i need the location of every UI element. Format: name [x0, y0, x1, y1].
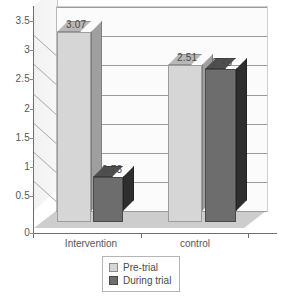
legend-label: Pre-trial: [123, 262, 158, 273]
bar-chart: 3.5 3 2.5 2 1.5 1 0.5 0 3.07 0.73 2.51 2…: [0, 0, 285, 298]
x-tick-2: [248, 233, 249, 238]
y-tick-label-3: 3: [4, 45, 30, 55]
x-axis-line: [33, 233, 277, 234]
y-tick-label-2: 2: [4, 104, 30, 114]
bar-front-face: [93, 177, 123, 222]
legend: Pre-trial During trial: [102, 256, 180, 292]
bar-side-face: [236, 58, 247, 211]
bar-intervention-during-trial[interactable]: [93, 177, 123, 222]
x-category-label-control: control: [168, 238, 222, 249]
data-label-intervention-pre-trial: 3.07: [66, 20, 86, 30]
y-tick-mark-0: [30, 233, 34, 234]
legend-item-during-trial[interactable]: During trial: [109, 274, 171, 287]
y-tick-label-1: 1: [4, 162, 30, 172]
plot-area: [34, 6, 266, 228]
y-tick-mark-0_5: [30, 196, 34, 197]
bar-front-face: [168, 65, 202, 222]
y-axis-line: [33, 6, 34, 234]
legend-label: During trial: [123, 275, 171, 286]
y-axis-labels: 3.5 3 2.5 2 1.5 1 0.5 0: [0, 0, 30, 240]
y-tick-mark-2: [30, 109, 34, 110]
y-tick-label-0: 0: [4, 228, 30, 238]
data-label-intervention-during-trial: 0.73: [102, 165, 122, 175]
y-tick-label-1_5: 1.5: [4, 133, 30, 143]
bar-intervention-pre-trial[interactable]: [57, 32, 91, 222]
data-label-control-pre-trial: 2.51: [177, 53, 197, 63]
bar-front-face: [57, 32, 91, 222]
y-tick-label-3_5: 3.5: [4, 16, 30, 26]
legend-swatch-icon: [109, 276, 118, 285]
y-tick-mark-2_5: [30, 79, 34, 80]
y-tick-label-0_5: 0.5: [4, 191, 30, 201]
bar-front-face: [205, 69, 236, 222]
y-tick-mark-1_5: [30, 138, 34, 139]
y-tick-label-2_5: 2.5: [4, 74, 30, 84]
bar-control-during-trial[interactable]: [205, 69, 236, 222]
data-label-control-during-trial: 2.45: [212, 58, 232, 68]
legend-swatch-icon: [109, 263, 118, 272]
y-tick-mark-3_5: [30, 21, 34, 22]
y-tick-mark-1: [30, 167, 34, 168]
x-category-label-intervention: Intervention: [55, 238, 127, 249]
bar-control-pre-trial[interactable]: [168, 65, 202, 222]
legend-item-pre-trial[interactable]: Pre-trial: [109, 261, 171, 274]
y-tick-mark-3: [30, 50, 34, 51]
gridline-3_5: [57, 7, 267, 8]
x-tick-1: [141, 233, 142, 238]
